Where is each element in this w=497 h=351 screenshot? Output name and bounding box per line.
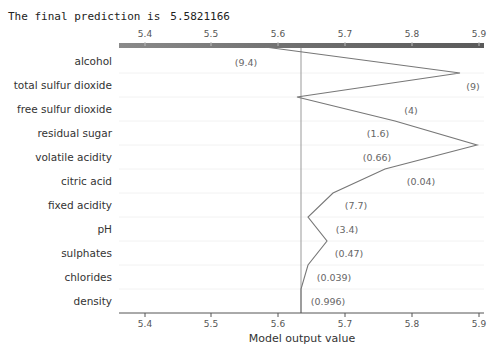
top-tick-label: 5.8 [405,29,420,39]
feature-label: pH [97,223,112,235]
feature-value-label: (9) [466,81,479,92]
feature-labels: alcohol total sulfur dioxide free sulfur… [14,55,113,307]
feature-label: chlorides [64,271,112,283]
feature-value-label: (3.4) [336,224,359,235]
feature-label: fixed acidity [48,199,112,211]
bottom-tick-label: 5.9 [472,319,487,329]
feature-value-label: (0.04) [407,176,436,187]
feature-value-label: (0.66) [363,152,392,163]
x-axis-title: Model output value [249,332,356,345]
bottom-tick-label: 5.7 [338,319,352,329]
bottom-axis: 5.4 5.5 5.6 5.7 5.8 5.9 Model output val… [119,313,486,345]
feature-label: density [74,295,113,307]
top-tick-label: 5.4 [138,29,153,39]
decision-path-line [265,47,477,313]
feature-value-label: (4) [404,105,417,116]
feature-label: free sulfur dioxide [17,103,112,115]
feature-value-label: (7.7) [345,200,368,211]
feature-label: total sulfur dioxide [14,79,112,91]
feature-label: residual sugar [38,127,113,139]
top-tick-label: 5.7 [338,29,352,39]
feature-value-label: (1.6) [367,128,390,139]
feature-label: citric acid [61,175,112,187]
feature-value-label: (9.4) [235,57,258,68]
decision-plot: 5.4 5.5 5.6 5.7 5.8 5.9 alcohol tota [0,0,497,351]
top-color-bar [119,43,484,48]
feature-label: volatile acidity [35,151,112,163]
bottom-tick-label: 5.4 [138,319,153,329]
bottom-tick-label: 5.6 [271,319,286,329]
top-tick-label: 5.6 [271,29,286,39]
feature-value-label: (0.996) [311,296,346,307]
top-tick-label: 5.5 [204,29,218,39]
feature-value-label: (0.47) [335,248,364,259]
top-tick-label: 5.9 [472,29,487,39]
feature-value-label: (0.039) [317,272,352,283]
bottom-tick-label: 5.8 [405,319,420,329]
feature-label: alcohol [74,55,112,67]
feature-label: sulphates [61,247,112,259]
bottom-tick-label: 5.5 [204,319,218,329]
